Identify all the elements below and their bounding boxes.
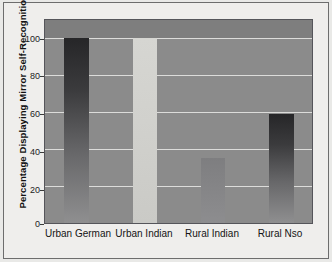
x-tick-label-rural-indian: Rural Indian [174,228,250,240]
y-tick-label-20: 20 [30,186,40,195]
y-tick-label-100: 100 [25,35,40,44]
bar-urban-german [64,38,89,223]
bar-rural-indian [201,158,225,223]
bar-rural-nso [269,114,294,223]
bar-urban-indian [133,38,157,223]
y-tick-label-60: 60 [30,110,40,119]
plot-area [44,19,313,224]
plot-top-band [45,20,312,38]
x-tick-label-urban-german: Urban German [40,228,116,240]
chart-figure: Percentage Displaying Mirror Self-Recogn… [0,0,332,262]
y-tick-label-80: 80 [30,72,40,81]
x-axis-tick-labels: Urban German Urban Indian Rural Indian R… [44,228,313,244]
y-axis-tick-labels: 100 80 60 40 20 0 [14,0,40,262]
y-tick-mark-0 [40,224,44,225]
y-tick-label-40: 40 [30,148,40,157]
x-tick-label-urban-indian: Urban Indian [106,228,182,240]
x-tick-label-rural-nso: Rural Nso [244,228,316,240]
